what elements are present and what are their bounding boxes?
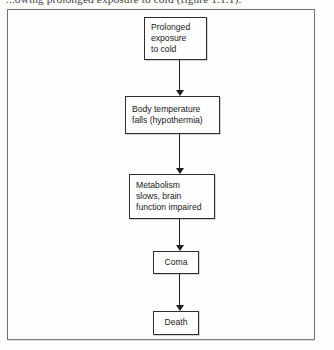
flow-box-hypothermia-line-2: falls (hypothermia) <box>132 115 214 126</box>
arrow-shaft <box>179 274 181 305</box>
flow-box-exposure-line-3: to cold <box>151 44 201 55</box>
flow-box-death-line-1: Death <box>165 317 188 328</box>
arrow-exposure-to-hypothermia <box>175 60 184 96</box>
flow-box-coma-line-1: Coma <box>165 257 188 268</box>
flow-box-metabolism-line-1: Metabolism <box>136 180 209 191</box>
flow-box-metabolism-line-2: slows, brain <box>136 191 209 202</box>
arrow-metabolism-to-coma <box>175 219 184 251</box>
flow-box-exposure: Prolonged exposure to cold <box>144 17 207 60</box>
figure-frame: Prolonged exposure to cold Body temperat… <box>7 9 315 340</box>
flow-box-hypothermia: Body temperature falls (hypothermia) <box>125 96 220 134</box>
flow-box-death: Death <box>153 311 199 335</box>
flow-box-coma: Coma <box>153 251 199 274</box>
flow-box-exposure-line-1: Prolonged <box>151 22 201 33</box>
arrow-hypothermia-to-metabolism <box>175 134 184 174</box>
flow-box-hypothermia-line-1: Body temperature <box>132 104 214 115</box>
flow-box-metabolism: Metabolism slows, brain function impaire… <box>129 174 215 219</box>
flow-box-exposure-line-2: exposure <box>151 33 201 44</box>
flow-box-metabolism-line-3: function impaired <box>136 202 209 213</box>
scan-artifact-line <box>8 339 314 341</box>
arrow-shaft <box>179 219 181 245</box>
figure-caption: ...owing prolonged exposure to cold (fig… <box>6 0 328 7</box>
arrow-shaft <box>179 134 181 168</box>
arrow-shaft <box>179 60 181 90</box>
figure-caption-text: ...owing prolonged exposure to cold (fig… <box>6 0 328 6</box>
arrow-coma-to-death <box>175 274 184 311</box>
